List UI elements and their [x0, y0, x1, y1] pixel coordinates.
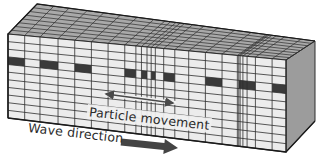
- side-face: [286, 41, 315, 152]
- particle-marker: [141, 70, 147, 79]
- particle-marker: [282, 85, 286, 94]
- longitudinal-wave-diagram: Particle movement Wave direction: [0, 0, 319, 166]
- particle-marker: [151, 71, 155, 79]
- medium-block: [0, 0, 319, 166]
